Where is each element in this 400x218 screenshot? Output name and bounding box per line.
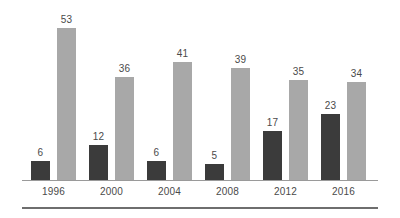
bar-value-label: 6 xyxy=(38,148,44,158)
bar-value-label: 35 xyxy=(293,67,305,77)
bar-group: 17 35 xyxy=(263,8,308,180)
bar-value-label: 12 xyxy=(93,132,105,142)
x-tick-label: 2008 xyxy=(205,185,250,199)
bar-value-label: 6 xyxy=(154,148,160,158)
x-tick-label: 2000 xyxy=(89,185,134,199)
bottom-rule xyxy=(22,207,378,209)
bar-value-label: 36 xyxy=(119,64,131,74)
bar-value-label: 17 xyxy=(267,118,279,128)
bar-value-label: 53 xyxy=(61,15,73,25)
x-tick-label: 2004 xyxy=(147,185,192,199)
plot-area: 6 53 12 36 6 41 5 xyxy=(22,8,378,180)
bar-light[interactable]: 53 xyxy=(57,28,76,180)
bar-group: 12 36 xyxy=(89,8,134,180)
bar-light[interactable]: 39 xyxy=(231,68,250,180)
x-tick-label: 1996 xyxy=(31,185,76,199)
bar-light[interactable]: 41 xyxy=(173,62,192,180)
bar-chart: 6 53 12 36 6 41 5 xyxy=(0,0,400,218)
bar-dark[interactable]: 12 xyxy=(89,145,108,180)
bar-value-label: 23 xyxy=(325,101,337,111)
bar-light[interactable]: 36 xyxy=(115,77,134,180)
bar-light[interactable]: 34 xyxy=(347,82,366,180)
bar-value-label: 34 xyxy=(351,69,363,79)
bar-light[interactable]: 35 xyxy=(289,80,308,180)
bar-value-label: 39 xyxy=(235,55,247,65)
x-axis-tick-labels: 1996 2000 2004 2008 2012 2016 xyxy=(22,185,378,199)
bar-group: 6 53 xyxy=(31,8,76,180)
bar-dark[interactable]: 17 xyxy=(263,131,282,180)
bar-dark[interactable]: 6 xyxy=(147,161,166,180)
x-axis-line xyxy=(22,180,378,181)
bar-group: 5 39 xyxy=(205,8,250,180)
bar-value-label: 41 xyxy=(177,49,189,59)
x-tick-label: 2016 xyxy=(321,185,366,199)
x-tick-label: 2012 xyxy=(263,185,308,199)
bar-group: 6 41 xyxy=(147,8,192,180)
bar-dark[interactable]: 23 xyxy=(321,114,340,180)
bar-group: 23 34 xyxy=(321,8,366,180)
bar-dark[interactable]: 6 xyxy=(31,161,50,180)
bar-dark[interactable]: 5 xyxy=(205,164,224,180)
bar-value-label: 5 xyxy=(212,151,218,161)
